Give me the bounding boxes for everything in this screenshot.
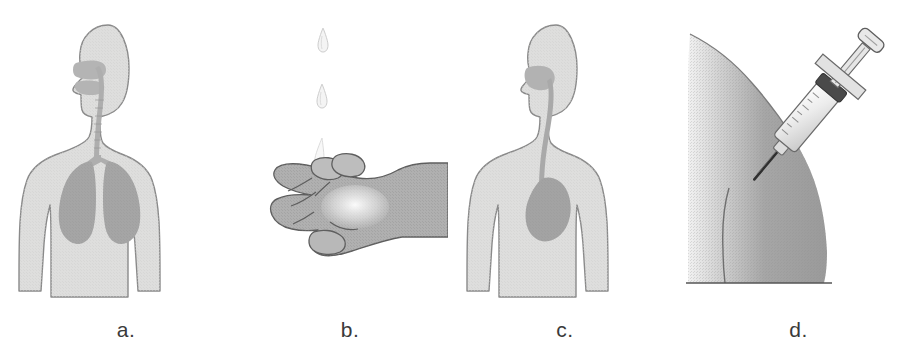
droplet-middle <box>317 84 327 108</box>
panel-c-oral: c. <box>448 0 682 354</box>
cupped-hand <box>271 154 448 256</box>
inhalation-illustration <box>0 0 252 310</box>
panel-b-label: b. <box>252 319 448 340</box>
panel-a-inhalation: a. <box>0 0 252 354</box>
panel-d-injection: d. <box>682 0 915 354</box>
panel-a-label: a. <box>0 319 252 340</box>
panel-b-topical: b. <box>252 0 448 354</box>
panel-c-label: c. <box>448 319 682 340</box>
oral-illustration <box>448 0 682 310</box>
droplet-top <box>318 28 328 52</box>
figure-routes-of-administration: a. <box>0 0 915 354</box>
panel-d-label: d. <box>682 319 915 340</box>
topical-illustration <box>252 0 448 310</box>
injection-illustration <box>682 0 915 310</box>
upper-arm <box>688 34 827 283</box>
